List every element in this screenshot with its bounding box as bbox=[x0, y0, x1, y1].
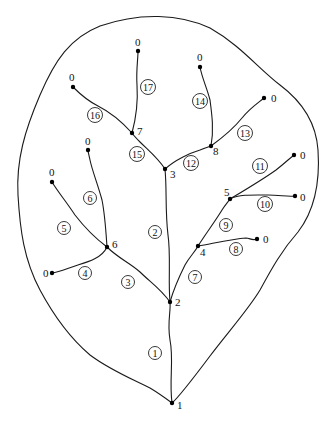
edge-label-text: 17 bbox=[143, 82, 153, 93]
watershed-diagram: 1234567891011121314151617 12345678000000… bbox=[0, 0, 335, 424]
node-dot bbox=[293, 194, 297, 198]
node-label: 0 bbox=[263, 233, 269, 245]
stream-edges bbox=[52, 51, 295, 403]
stream-segment-3 bbox=[107, 247, 170, 302]
node-label: 0 bbox=[69, 71, 75, 83]
edge-label-text: 10 bbox=[260, 199, 270, 210]
node-label: 4 bbox=[200, 246, 206, 258]
stream-segment-17 bbox=[132, 51, 138, 133]
edge-label-text: 7 bbox=[193, 272, 198, 283]
node-s14: 0 bbox=[197, 51, 203, 69]
node-label: 0 bbox=[271, 92, 277, 104]
edge-label-9: 9 bbox=[220, 219, 233, 232]
edge-label-text: 16 bbox=[90, 110, 100, 121]
edge-label-1: 1 bbox=[149, 347, 162, 360]
edge-label-text: 6 bbox=[88, 193, 93, 204]
node-s17: 0 bbox=[135, 36, 141, 53]
node-label: 0 bbox=[85, 135, 91, 147]
edge-label-6: 6 bbox=[84, 192, 97, 205]
node-s6: 0 bbox=[85, 135, 91, 152]
edge-label-text: 15 bbox=[132, 149, 142, 160]
node-s5: 0 bbox=[49, 166, 55, 184]
node-dot bbox=[198, 65, 202, 69]
node-s8: 0 bbox=[255, 233, 269, 245]
node-s16: 0 bbox=[69, 71, 75, 89]
node-dot bbox=[86, 148, 90, 152]
edge-label-7: 7 bbox=[189, 271, 202, 284]
node-label: 0 bbox=[43, 267, 49, 279]
edge-label-text: 5 bbox=[62, 223, 67, 234]
edge-label-17: 17 bbox=[141, 80, 156, 95]
node-dot bbox=[163, 167, 167, 171]
node-n8: 8 bbox=[209, 144, 219, 157]
edge-label-8: 8 bbox=[230, 243, 243, 256]
stream-segment-2 bbox=[165, 169, 170, 302]
edge-label-text: 2 bbox=[153, 227, 158, 238]
node-s13: 0 bbox=[262, 92, 277, 104]
edge-label-text: 4 bbox=[83, 268, 88, 279]
edge-label-text: 11 bbox=[255, 161, 265, 172]
node-n3: 3 bbox=[163, 167, 176, 180]
edge-label-text: 13 bbox=[240, 128, 250, 139]
edge-label-text: 3 bbox=[126, 277, 131, 288]
edge-label-text: 8 bbox=[234, 244, 239, 255]
node-label: 7 bbox=[137, 125, 143, 137]
stream-segment-8 bbox=[198, 238, 257, 246]
stream-segment-1 bbox=[169, 302, 172, 403]
edge-label-4: 4 bbox=[79, 267, 92, 280]
edge-label-text: 12 bbox=[186, 158, 196, 169]
node-label: 0 bbox=[300, 191, 306, 203]
node-label: 0 bbox=[135, 36, 141, 48]
node-dot bbox=[292, 153, 296, 157]
edge-label-text: 1 bbox=[153, 348, 158, 359]
node-dot bbox=[50, 180, 54, 184]
edge-label-12: 12 bbox=[184, 156, 199, 171]
node-dot bbox=[71, 85, 75, 89]
edge-label-10: 10 bbox=[258, 197, 273, 212]
edge-label-3: 3 bbox=[122, 276, 135, 289]
edge-label-11: 11 bbox=[253, 159, 268, 174]
node-dot bbox=[105, 245, 109, 249]
edge-label-13: 13 bbox=[238, 126, 253, 141]
node-label: 2 bbox=[175, 296, 181, 308]
node-label: 3 bbox=[170, 168, 176, 180]
node-s11: 0 bbox=[292, 149, 306, 161]
node-label: 0 bbox=[300, 149, 306, 161]
node-n7: 7 bbox=[130, 125, 143, 137]
node-n4: 4 bbox=[196, 244, 206, 258]
edge-label-2: 2 bbox=[149, 226, 162, 239]
node-label: 1 bbox=[177, 399, 183, 411]
node-s10: 0 bbox=[293, 191, 306, 203]
node-dot bbox=[168, 300, 172, 304]
node-n5: 5 bbox=[224, 186, 232, 201]
watershed-boundary bbox=[18, 16, 319, 403]
stream-segment-16 bbox=[73, 87, 132, 133]
node-label: 6 bbox=[112, 238, 118, 250]
node-s4: 0 bbox=[43, 267, 54, 279]
node-label: 0 bbox=[197, 51, 203, 63]
edge-label-text: 14 bbox=[195, 96, 205, 107]
edge-label-text: 9 bbox=[224, 220, 229, 231]
stream-segment-5 bbox=[52, 182, 107, 247]
node-label: 5 bbox=[224, 186, 230, 198]
edge-label-14: 14 bbox=[193, 94, 208, 109]
node-dot bbox=[255, 237, 259, 241]
node-dot bbox=[50, 271, 54, 275]
node-dot bbox=[130, 131, 134, 135]
node-dot bbox=[262, 96, 266, 100]
node-label: 0 bbox=[49, 166, 55, 178]
node-label: 8 bbox=[213, 145, 219, 157]
edge-label-15: 15 bbox=[130, 147, 145, 162]
stream-segment-13 bbox=[211, 98, 264, 146]
node-dot bbox=[170, 401, 174, 405]
edge-label-5: 5 bbox=[58, 222, 71, 235]
node-dot bbox=[136, 49, 140, 53]
edge-label-16: 16 bbox=[88, 108, 103, 123]
